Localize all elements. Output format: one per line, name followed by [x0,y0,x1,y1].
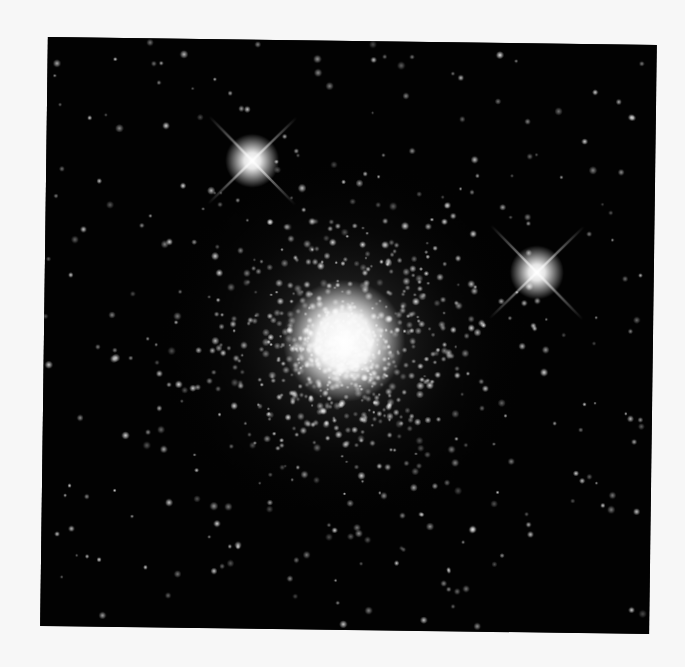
globular-cluster-photo [40,37,657,634]
star-field-canvas [40,37,657,634]
